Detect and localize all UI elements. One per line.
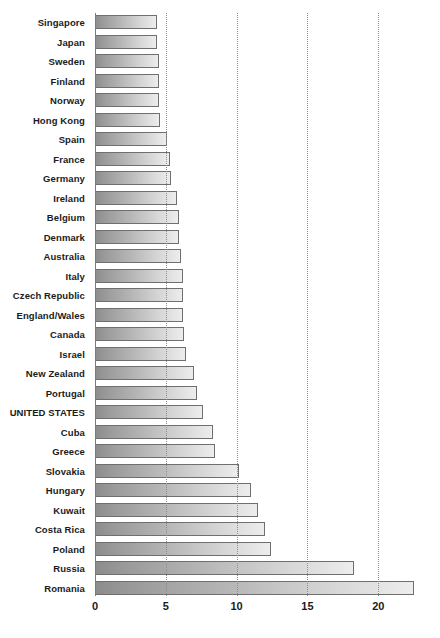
category-label-row: Israel [0, 345, 90, 365]
bar [95, 93, 159, 107]
category-label: UNITED STATES [10, 403, 85, 423]
bar [95, 74, 159, 88]
bar-row [95, 91, 425, 111]
bar [95, 288, 183, 302]
category-label: France [53, 150, 85, 170]
bar [95, 503, 258, 517]
category-label: Kuwait [53, 501, 85, 521]
bar-row [95, 247, 425, 267]
bar [95, 191, 177, 205]
bar-row [95, 481, 425, 501]
category-label-row: Italy [0, 267, 90, 287]
category-label-row: Czech Republic [0, 286, 90, 306]
bar [95, 366, 194, 380]
category-label: Poland [53, 540, 85, 560]
bar-row [95, 403, 425, 423]
bar-row [95, 462, 425, 482]
category-label-row: England/Wales [0, 306, 90, 326]
category-label-row: Singapore [0, 13, 90, 33]
bar-row [95, 579, 425, 599]
category-label-row: Japan [0, 33, 90, 53]
bar-chart: SingaporeJapanSwedenFinlandNorwayHong Ko… [0, 0, 440, 638]
category-label: Spain [59, 130, 85, 150]
bar [95, 327, 184, 341]
bar-row [95, 111, 425, 131]
category-label: Australia [43, 247, 85, 267]
bar-row [95, 169, 425, 189]
bar-row [95, 306, 425, 326]
category-label: Greece [52, 442, 85, 462]
category-label: Finland [51, 72, 85, 92]
x-tick-label: 20 [372, 600, 384, 612]
gridline [378, 13, 379, 596]
bar [95, 35, 157, 49]
bar-row [95, 267, 425, 287]
x-tick-label: 10 [231, 600, 243, 612]
category-label: Romania [44, 579, 85, 599]
gridline [166, 13, 167, 596]
bar [95, 15, 157, 29]
bar-row [95, 286, 425, 306]
bar-row [95, 52, 425, 72]
bar-row [95, 540, 425, 560]
bar [95, 347, 186, 361]
category-label-row: Ireland [0, 189, 90, 209]
bar [95, 542, 271, 556]
category-label-row: Hong Kong [0, 111, 90, 131]
category-label-row: Portugal [0, 384, 90, 404]
category-label: Czech Republic [13, 286, 85, 306]
bar-row [95, 501, 425, 521]
category-label-row: Sweden [0, 52, 90, 72]
category-label: Italy [65, 267, 85, 287]
bar-row [95, 520, 425, 540]
bar [95, 152, 170, 166]
plot-area [95, 13, 425, 595]
bar-row [95, 208, 425, 228]
category-label-row: Germany [0, 169, 90, 189]
category-label-row: Greece [0, 442, 90, 462]
category-label: Canada [50, 325, 85, 345]
category-label-row: Finland [0, 72, 90, 92]
bar-row [95, 423, 425, 443]
category-label-row: Romania [0, 579, 90, 599]
gridline [237, 13, 238, 596]
bar [95, 425, 213, 439]
bar [95, 386, 197, 400]
x-tick-label: 15 [301, 600, 313, 612]
bar [95, 522, 265, 536]
category-label: Portugal [46, 384, 85, 404]
category-label-row: Hungary [0, 481, 90, 501]
bar-row [95, 364, 425, 384]
category-label: Israel [60, 345, 85, 365]
category-label-row: Slovakia [0, 462, 90, 482]
category-label-row: New Zealand [0, 364, 90, 384]
bar [95, 405, 203, 419]
category-label-row: Kuwait [0, 501, 90, 521]
bar [95, 132, 167, 146]
y-axis-line [95, 13, 96, 596]
x-tick-label: 0 [92, 600, 98, 612]
category-label: New Zealand [26, 364, 85, 384]
bar [95, 269, 183, 283]
category-label-row: UNITED STATES [0, 403, 90, 423]
bar-row [95, 150, 425, 170]
category-label: Russia [53, 559, 85, 579]
category-label-row: Canada [0, 325, 90, 345]
category-label: Japan [57, 33, 85, 53]
bar-row [95, 345, 425, 365]
bar [95, 483, 251, 497]
category-label: Denmark [44, 228, 85, 248]
gridline [307, 13, 308, 596]
category-label: Belgium [47, 208, 85, 228]
category-label-row: Australia [0, 247, 90, 267]
bar [95, 444, 215, 458]
bar [95, 308, 183, 322]
category-label-row: Spain [0, 130, 90, 150]
bar [95, 249, 181, 263]
category-label-row: France [0, 150, 90, 170]
category-label: Ireland [53, 189, 85, 209]
bar-row [95, 384, 425, 404]
bar [95, 581, 414, 595]
category-label: Costa Rica [35, 520, 85, 540]
bar-row [95, 33, 425, 53]
